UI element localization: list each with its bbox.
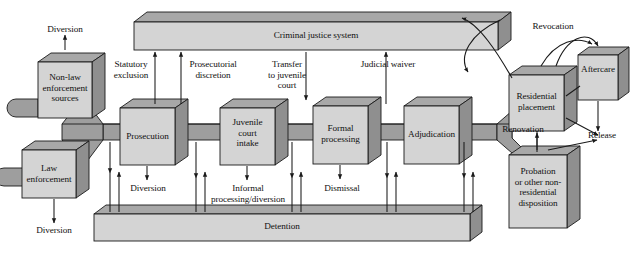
informal-processing-diversion-label: Informal processing/diversion — [206, 183, 290, 204]
dismissal-label: Dismissal — [312, 183, 372, 194]
residential-placement-box — [509, 66, 577, 131]
detention-bar — [94, 205, 482, 241]
prosecution-box — [120, 99, 188, 165]
adjudication-box — [404, 97, 472, 164]
revocation-top-label: Revocation — [517, 21, 589, 32]
law-enforcement-box — [0, 141, 89, 198]
prosecutorial-discretion-label: Prosecutorial discretion — [173, 59, 253, 80]
probation-box — [509, 146, 580, 228]
renovation-label: Renovation — [493, 124, 553, 135]
diversion-prosecution-label: Diversion — [118, 183, 178, 194]
criminal-justice-system-bar — [134, 12, 511, 50]
formal-processing-box — [313, 97, 381, 164]
release-label: Release — [578, 130, 626, 141]
statutory-exclusion-label: Statutory exclusion — [100, 59, 162, 80]
juvenile-court-intake-box — [220, 99, 288, 165]
diversion-top-label: Diversion — [35, 24, 95, 35]
flowchart-diagram: Criminal justice system Detention Non-la… — [0, 0, 637, 258]
non-law-enforcement-sources-box — [7, 53, 105, 118]
transfer-to-juvenile-court-label: Transfer to juvenile court — [256, 59, 318, 91]
diversion-law-enforcement-label: Diversion — [24, 225, 84, 236]
aftercare-box — [578, 47, 629, 100]
judicial-waiver-label: Judicial waiver — [345, 59, 431, 70]
